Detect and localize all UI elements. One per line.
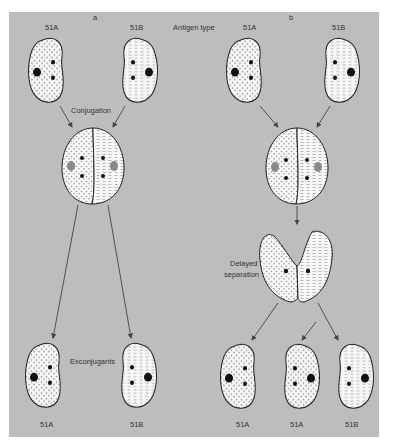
a-parent-51b-label: 51B bbox=[130, 23, 143, 32]
panel-a-label: a bbox=[93, 13, 98, 22]
b-delayed-separation-cell bbox=[260, 231, 333, 302]
a-parent-51a-cell bbox=[29, 38, 64, 102]
b-offspring-51a-cell-2 bbox=[285, 344, 320, 408]
b-offspring-51a-label-2: 51A bbox=[290, 420, 303, 429]
a-exconjugant-51b-cell bbox=[122, 343, 157, 407]
conjugation-diagram: a b Antigen type 51A 51B 51A 51B Conjuga… bbox=[0, 0, 400, 447]
a-parent-51a-label: 51A bbox=[45, 23, 58, 32]
b-parent-51a-cell bbox=[227, 38, 262, 102]
a-conjugant-pair bbox=[62, 128, 124, 204]
delayed-label-line2: separation bbox=[224, 270, 259, 279]
delayed-label-line1: Delayed bbox=[230, 259, 258, 268]
b-conjugant-pair bbox=[266, 128, 328, 204]
a-offspring-51b-label: 51B bbox=[130, 420, 143, 429]
exconjugants-label: Exconjugants bbox=[70, 357, 115, 366]
b-offspring-51a-cell-1 bbox=[221, 344, 256, 408]
b-offspring-51b-cell bbox=[339, 344, 374, 408]
a-exconjugant-51a-cell bbox=[26, 343, 61, 407]
a-offspring-51a-label: 51A bbox=[40, 420, 53, 429]
b-parent-51a-label: 51A bbox=[243, 23, 256, 32]
a-parent-51b-cell bbox=[123, 38, 158, 102]
b-offspring-51a-label-1: 51A bbox=[236, 420, 249, 429]
panel-b-label: b bbox=[289, 13, 293, 22]
b-offspring-51b-label: 51B bbox=[345, 420, 358, 429]
b-parent-51b-label: 51B bbox=[332, 23, 345, 32]
conjugation-label: Conjugation bbox=[71, 106, 111, 115]
antigen-type-header: Antigen type bbox=[173, 23, 215, 32]
b-parent-51b-cell bbox=[325, 38, 360, 102]
